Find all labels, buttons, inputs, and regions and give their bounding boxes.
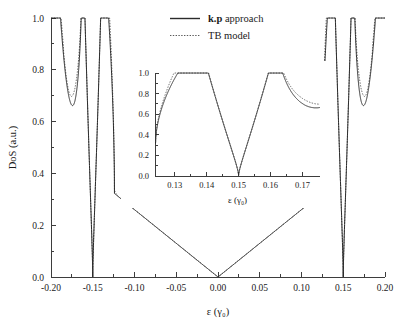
chart-legend: k.p approachTB model: [170, 13, 264, 41]
x-tick-label: 0.10: [293, 283, 310, 293]
y-tick-label: 0.2: [32, 221, 44, 231]
inset-y-tick-label: 0.6: [138, 109, 149, 119]
x-tick-label: -0.10: [125, 283, 145, 293]
x-tick-label: 0.00: [210, 283, 227, 293]
legend-label-rest: TB model: [208, 30, 250, 41]
y-tick-label: 0.6: [32, 117, 44, 127]
y-tick-label: 0.4: [32, 169, 44, 179]
inset-x-tick-label: 0.14: [199, 180, 215, 190]
y-tick-label: 0.0: [32, 273, 44, 283]
inset-y-tick-label: 0.2: [138, 150, 149, 160]
x-tick-label: -0.20: [41, 283, 61, 293]
inset-x-tick-label: 0.17: [295, 180, 310, 190]
inset-x-tick-label: 0.13: [167, 180, 182, 190]
inset-y-tick-label: 1.0: [138, 68, 149, 78]
x-tick-label: 0.20: [377, 283, 394, 293]
inset-axes: 0.130.140.150.160.170.00.20.40.60.81.0ε …: [121, 61, 332, 208]
legend-label: k.p approach: [208, 13, 264, 24]
legend-label: TB model: [208, 30, 250, 41]
inset-x-tick-label: 0.16: [263, 180, 278, 190]
inset-y-tick-label: 0.4: [138, 130, 149, 140]
legend-label-bold: k.p: [208, 13, 222, 24]
y-axis-title: DoS (a.u.): [7, 125, 19, 169]
inset-y-tick-label: 0.8: [138, 89, 149, 99]
x-axis-title: ε (γ₀): [207, 306, 230, 318]
inset-x-tick-label: 0.15: [231, 180, 246, 190]
y-tick-label: 1.0: [32, 14, 44, 24]
x-tick-label: -0.15: [83, 283, 103, 293]
dos-chart-svg: -0.20-0.15-0.10-0.050.000.050.100.150.20…: [0, 0, 412, 327]
inset-y-tick-label: 0.0: [138, 171, 149, 181]
dos-figure: -0.20-0.15-0.10-0.050.000.050.100.150.20…: [0, 0, 412, 327]
legend-label-rest: approach: [222, 13, 264, 24]
x-tick-label: 0.15: [335, 283, 352, 293]
inset-x-axis-title: ε (γ₀): [228, 195, 247, 205]
y-tick-label: 0.8: [32, 65, 44, 75]
x-tick-label: 0.05: [251, 283, 268, 293]
x-tick-label: -0.05: [166, 283, 186, 293]
